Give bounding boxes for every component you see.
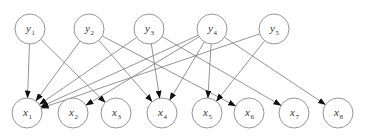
edge-y2-to-x6 (102, 36, 235, 106)
bipartite-graph: y1y2y3y4y5x1x2x3x4x5x6x7x8 (0, 0, 366, 138)
edge-y4-to-x2 (86, 37, 199, 105)
node-x7: x7 (279, 98, 309, 128)
edge-y5-to-x1 (41, 34, 260, 108)
edge-y1-to-x1 (28, 44, 30, 98)
node-x8: x8 (323, 98, 353, 128)
node-x1: x1 (12, 98, 42, 128)
node-x2: x2 (58, 98, 88, 128)
edge-y4-to-x8 (224, 37, 325, 104)
edge-y3-to-x1 (39, 38, 136, 105)
edge-y4-to-x1 (41, 35, 199, 107)
edge-y3-to-x4 (151, 44, 159, 98)
node-x5: x5 (192, 98, 222, 128)
node-x4: x4 (147, 98, 177, 128)
node-y4: y4 (197, 14, 227, 44)
node-y5: y5 (259, 14, 289, 44)
edge-layer (28, 34, 326, 108)
node-y3: y3 (134, 14, 164, 44)
node-layer: y1y2y3y4y5x1x2x3x4x5x6x7x8 (12, 14, 353, 128)
edge-y1-to-x3 (41, 39, 106, 102)
node-x6: x6 (234, 98, 264, 128)
edge-y4-to-x5 (208, 44, 211, 98)
node-y1: y1 (15, 14, 45, 44)
node-x3: x3 (101, 98, 131, 128)
node-y2: y2 (74, 14, 104, 44)
